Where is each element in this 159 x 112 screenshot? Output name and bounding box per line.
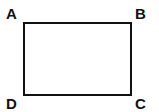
- vertex-label-a: A: [6, 6, 17, 21]
- rectangle-abcd: [23, 22, 132, 96]
- vertex-label-b: B: [135, 6, 146, 21]
- vertex-label-c: C: [135, 96, 146, 111]
- vertex-label-d: D: [6, 96, 17, 111]
